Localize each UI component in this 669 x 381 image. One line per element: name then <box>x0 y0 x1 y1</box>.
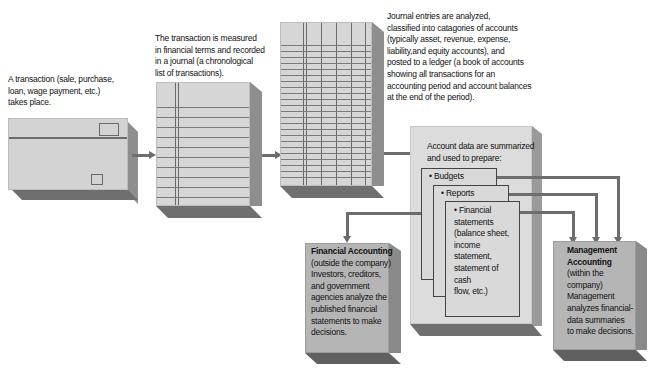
connector-reports <box>509 193 597 196</box>
text-line: analyzes financial- <box>567 303 634 315</box>
text-line: liability,and equity accounts), and <box>387 46 531 58</box>
management-accounting-title: Management <box>567 245 634 257</box>
text-line: in a journal (a chronological <box>155 56 265 68</box>
text-line: and used to prepare: <box>427 153 534 165</box>
arrowhead-right-icon <box>149 151 156 159</box>
flow-arrow <box>262 154 276 157</box>
management-accounting-text: Management Accounting (within the compan… <box>567 245 634 338</box>
text-line: Journal entries are analyzed, <box>387 11 531 23</box>
text-line: published financial <box>311 304 392 316</box>
text-line: Investors, creditors, <box>311 269 392 281</box>
journal-icon <box>156 82 262 218</box>
connector-statements <box>572 211 575 238</box>
text-line: (outside the company) <box>311 258 392 270</box>
text-line: statements <box>454 217 514 229</box>
connector-statements <box>520 211 574 214</box>
text-line: company) <box>567 280 634 292</box>
text-line: decisions. <box>311 327 392 339</box>
text-line: Account data are summarized <box>427 141 534 153</box>
reports-label: • Reports <box>441 188 474 200</box>
text-line: Management <box>567 291 634 303</box>
text-line: to make decisions. <box>567 326 634 338</box>
text-line: at the end of the period). <box>387 92 531 104</box>
text-line: statements to make <box>311 316 392 328</box>
text-line: flow, etc.) <box>454 286 514 298</box>
connector-financial <box>346 212 421 215</box>
connector-budgets <box>497 176 619 179</box>
text-line: income statement, <box>454 240 514 263</box>
ledger-description: Journal entries are analyzed, classified… <box>387 11 531 104</box>
financial-statements-document: • Financial statements (balance sheet, i… <box>445 201 520 317</box>
text-line: (balance sheet, <box>454 228 514 240</box>
text-line: • Financial <box>454 205 514 217</box>
text-line: The transaction is measured <box>155 33 265 45</box>
text-line: agencies analyze the <box>311 292 392 304</box>
financial-accounting-title: Financial Accounting <box>311 246 392 258</box>
connector-financial <box>346 212 349 237</box>
budgets-label: • Budgets <box>429 171 464 183</box>
text-line: classified into catagories of accounts <box>387 23 531 35</box>
text-line: (within the <box>567 268 634 280</box>
text-line: A transaction (sale, purchase, <box>8 74 114 86</box>
text-line: statement of cash <box>454 263 514 286</box>
flow-arrow <box>132 154 150 157</box>
journal-description: The transaction is measured in financial… <box>155 33 265 79</box>
text-line: loan, wage payment, etc.) <box>8 86 114 98</box>
arrowhead-down-icon <box>343 236 351 243</box>
text-line: data summaries <box>567 315 634 327</box>
text-line: accounting period and account balances <box>387 81 531 93</box>
transaction-document-icon <box>8 118 138 200</box>
connector-reports <box>595 193 598 238</box>
summary-description: Account data are summarized and used to … <box>427 141 534 164</box>
transaction-description: A transaction (sale, purchase, loan, wag… <box>8 74 114 109</box>
financial-accounting-text: Financial Accounting (outside the compan… <box>311 246 392 339</box>
text-line: posted to a ledger (a book of accounts <box>387 57 531 69</box>
management-accounting-title: Accounting <box>567 257 634 269</box>
connector-budgets <box>617 176 620 238</box>
text-line: list of transactions). <box>155 68 265 80</box>
text-line: (typically asset, revenue, expense, <box>387 34 531 46</box>
ledger-icon <box>280 22 384 198</box>
text-line: takes place. <box>8 97 114 109</box>
text-line: in financial terms and recorded <box>155 45 265 57</box>
financial-statements-label: • Financial statements (balance sheet, i… <box>454 205 514 298</box>
text-line: and government <box>311 281 392 293</box>
text-line: showing all transactions for an <box>387 69 531 81</box>
